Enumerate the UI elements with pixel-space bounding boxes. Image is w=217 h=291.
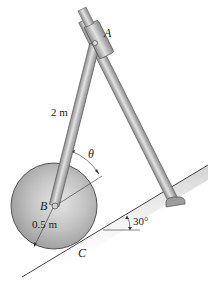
label-disk-radius: 0.5 m xyxy=(32,218,58,230)
label-incline-angle: 30° xyxy=(133,215,148,227)
pin-a xyxy=(93,41,98,46)
label-point-a: A xyxy=(103,26,112,40)
label-point-c: C xyxy=(78,246,87,260)
mechanism-diagram: A 2 m θ B 0.5 m C 30° xyxy=(0,0,217,291)
label-theta: θ xyxy=(88,147,94,161)
rod-foot xyxy=(166,197,185,207)
label-rod-length: 2 m xyxy=(51,106,68,118)
label-point-b: B xyxy=(40,199,48,213)
